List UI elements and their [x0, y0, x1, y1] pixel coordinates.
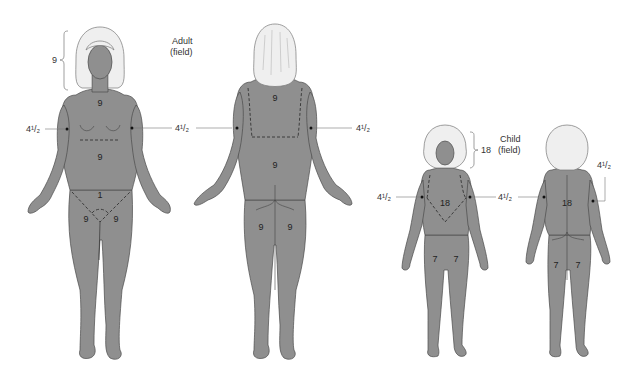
adult-back-upper-label: 9: [272, 93, 277, 103]
child-back-legs: [548, 235, 591, 357]
adult-back-hair: [254, 24, 297, 87]
child-front-right-arm-label: 4¹/₂: [498, 192, 513, 202]
child-back-hair: [546, 125, 588, 170]
adult-subtitle: (field): [170, 47, 193, 57]
adult-head-brace: [60, 31, 68, 90]
adult-front-chest-label: 9: [97, 98, 102, 108]
child-front-face: [436, 141, 454, 165]
adult-back-right-leg-label: 9: [287, 222, 292, 232]
child-front-right-leg-label: 7: [453, 254, 458, 264]
child-back-right-leg-label: 7: [575, 260, 580, 270]
adult-front-left-arm: [28, 105, 69, 213]
adult-back-right-arm-label: 4¹/₂: [356, 123, 371, 133]
child-back-trunk-label: 18: [562, 198, 572, 208]
adult-head-label: 9: [52, 55, 57, 65]
adult-front-right-arm: [131, 105, 171, 213]
child-front-left-leg-label: 7: [432, 254, 437, 264]
adult-front-face: [88, 45, 112, 79]
adult-back-right-arm: [307, 92, 352, 205]
adult-back-lower-label: 9: [272, 160, 277, 170]
child-head-label: 18: [481, 145, 491, 155]
child-head-brace: [470, 132, 478, 168]
child-front-legs: [424, 235, 468, 357]
adult-front-perineum-label: 1: [97, 190, 102, 200]
adult-front-left-leg-label: 9: [83, 214, 88, 224]
adult-front-figure: 9 9 1 9 9 9 4¹/₂ 4¹/₂ Adult (field): [26, 27, 232, 359]
child-back-left-leg-label: 7: [553, 260, 558, 270]
child-title: Child: [500, 134, 521, 144]
child-back-right-arm-label: 4¹/₂: [597, 160, 612, 170]
child-subtitle: (field): [498, 145, 521, 155]
adult-front-right-arm-label: 4¹/₂: [175, 123, 190, 133]
child-front-trunk-label: 18: [440, 198, 450, 208]
adult-front-right-leg-label: 9: [113, 214, 118, 224]
adult-front-abdomen-label: 9: [97, 152, 102, 162]
child-front-figure: 18 7 7 18 4¹/₂ 4¹/₂ Child (field): [377, 125, 543, 357]
child-back-figure: 18 7 7 4¹/₂: [526, 125, 612, 357]
adult-back-left-arm: [194, 92, 243, 205]
child-front-left-arm-label: 4¹/₂: [377, 192, 392, 202]
adult-front-left-leg: [69, 190, 133, 359]
adult-back-left-leg-label: 9: [258, 222, 263, 232]
adult-back-figure: 9 9 9 9 4¹/₂: [194, 24, 371, 359]
adult-front-left-arm-label: 4¹/₂: [26, 124, 41, 134]
rule-of-nines-diagram: 9 9 1 9 9 9 4¹/₂ 4¹/₂ Adult (field) 9 9 …: [0, 0, 641, 381]
adult-title: Adult: [172, 36, 193, 46]
